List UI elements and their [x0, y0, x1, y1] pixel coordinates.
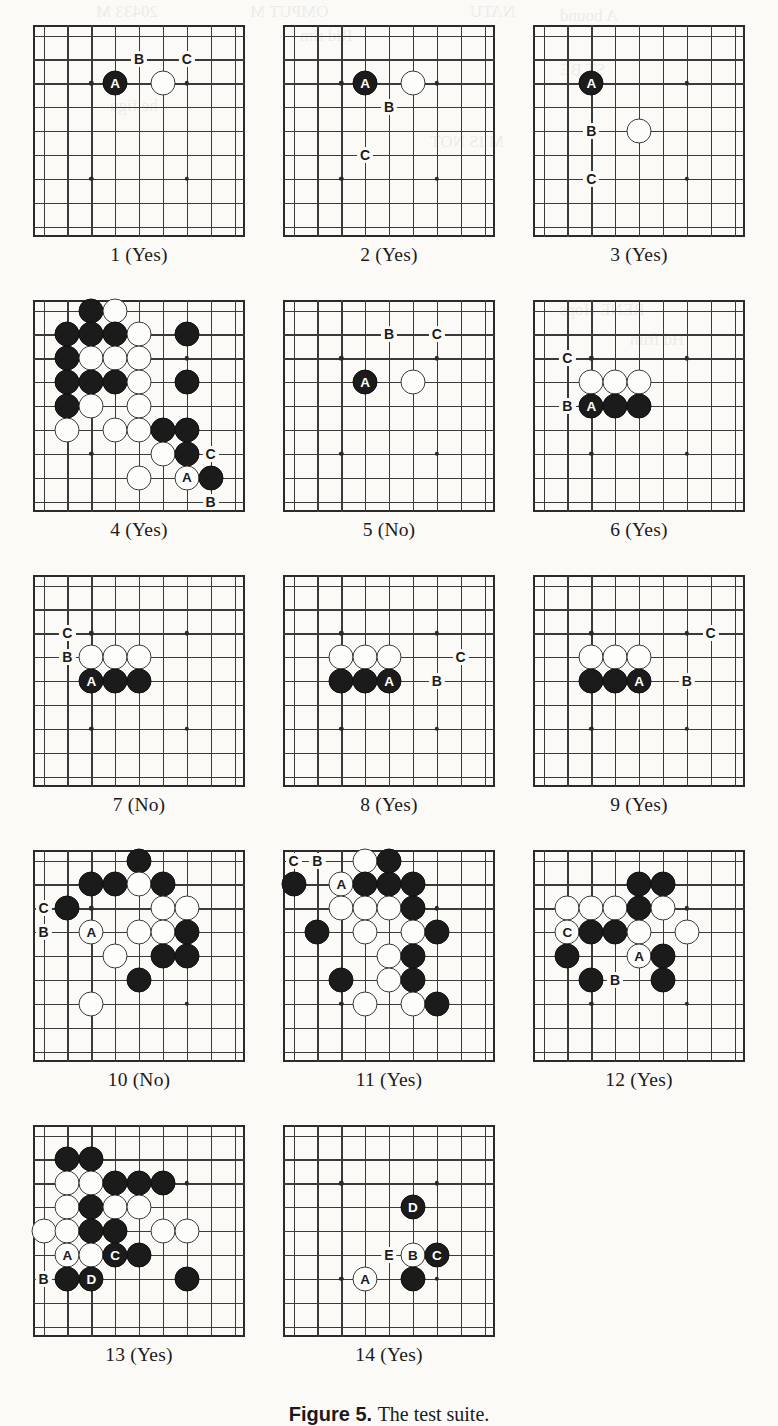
point-label-b[interactable]: B: [131, 51, 147, 67]
go-board-2[interactable]: BCA: [283, 25, 495, 237]
white-stone[interactable]: [127, 322, 152, 347]
black-stone[interactable]: [281, 872, 306, 897]
point-label-b[interactable]: B: [203, 494, 219, 510]
black-stone[interactable]: [103, 669, 128, 694]
white-stone[interactable]: [353, 991, 378, 1016]
point-label-c[interactable]: C: [35, 900, 51, 916]
point-label-b[interactable]: B: [35, 1271, 51, 1287]
white-stone[interactable]: [400, 71, 425, 96]
black-stone[interactable]: [400, 896, 425, 921]
white-stone-a[interactable]: A: [79, 920, 104, 945]
point-label-b[interactable]: B: [381, 99, 397, 115]
black-stone[interactable]: [174, 920, 199, 945]
black-stone[interactable]: [627, 896, 652, 921]
white-stone[interactable]: [55, 1195, 80, 1220]
white-stone[interactable]: [79, 991, 104, 1016]
white-stone[interactable]: [579, 370, 604, 395]
black-stone[interactable]: [305, 920, 330, 945]
white-stone[interactable]: [79, 1171, 104, 1196]
point-label-c[interactable]: C: [703, 625, 719, 641]
white-stone[interactable]: [150, 71, 175, 96]
point-label-b[interactable]: B: [309, 853, 325, 869]
white-stone[interactable]: [55, 1171, 80, 1196]
black-stone-c[interactable]: C: [103, 1242, 128, 1267]
white-stone[interactable]: [127, 872, 152, 897]
go-board-10[interactable]: CBA: [33, 850, 245, 1062]
point-label-c[interactable]: C: [203, 446, 219, 462]
black-stone[interactable]: [127, 848, 152, 873]
black-stone[interactable]: [377, 848, 402, 873]
black-stone[interactable]: [603, 394, 628, 419]
white-stone[interactable]: [377, 944, 402, 969]
white-stone[interactable]: [627, 920, 652, 945]
black-stone[interactable]: [55, 1147, 80, 1172]
black-stone[interactable]: [174, 1266, 199, 1291]
white-stone[interactable]: [150, 896, 175, 921]
white-stone[interactable]: [400, 920, 425, 945]
black-stone[interactable]: [79, 1219, 104, 1244]
black-stone-d[interactable]: D: [79, 1266, 104, 1291]
point-label-c[interactable]: C: [453, 649, 469, 665]
black-stone[interactable]: [174, 441, 199, 466]
black-stone[interactable]: [400, 944, 425, 969]
white-stone[interactable]: [79, 1242, 104, 1267]
black-stone-a[interactable]: A: [79, 669, 104, 694]
black-stone[interactable]: [424, 991, 449, 1016]
white-stone[interactable]: [150, 920, 175, 945]
go-board-11[interactable]: CBA: [283, 850, 495, 1062]
white-stone-a[interactable]: A: [353, 1266, 378, 1291]
black-stone[interactable]: [127, 1171, 152, 1196]
black-stone[interactable]: [579, 669, 604, 694]
white-stone[interactable]: [150, 441, 175, 466]
black-stone[interactable]: [174, 417, 199, 442]
black-stone[interactable]: [127, 1242, 152, 1267]
go-board-13[interactable]: BACD: [33, 1125, 245, 1337]
black-stone[interactable]: [377, 872, 402, 897]
black-stone[interactable]: [174, 944, 199, 969]
point-label-c[interactable]: C: [59, 625, 75, 641]
point-label-b[interactable]: B: [559, 398, 575, 414]
go-board-4[interactable]: CBA: [33, 300, 245, 512]
white-stone[interactable]: [150, 1219, 175, 1244]
go-board-12[interactable]: BCA: [533, 850, 745, 1062]
black-stone[interactable]: [79, 1147, 104, 1172]
white-stone[interactable]: [400, 991, 425, 1016]
white-stone[interactable]: [377, 645, 402, 670]
black-stone[interactable]: [400, 872, 425, 897]
black-stone[interactable]: [55, 322, 80, 347]
white-stone[interactable]: [377, 896, 402, 921]
point-label-b[interactable]: B: [583, 123, 599, 139]
black-stone[interactable]: [650, 872, 675, 897]
point-label-c[interactable]: C: [559, 350, 575, 366]
white-stone[interactable]: [579, 896, 604, 921]
point-label-b[interactable]: B: [607, 972, 623, 988]
white-stone-b[interactable]: B: [400, 1242, 425, 1267]
point-label-c[interactable]: C: [583, 171, 599, 187]
black-stone[interactable]: [150, 944, 175, 969]
white-stone[interactable]: [650, 896, 675, 921]
black-stone[interactable]: [79, 298, 104, 323]
go-board-8[interactable]: CBA: [283, 575, 495, 787]
go-board-9[interactable]: CBA: [533, 575, 745, 787]
black-stone[interactable]: [150, 1171, 175, 1196]
black-stone[interactable]: [55, 346, 80, 371]
black-stone-a[interactable]: A: [627, 669, 652, 694]
white-stone[interactable]: [127, 370, 152, 395]
white-stone[interactable]: [127, 645, 152, 670]
white-stone-a[interactable]: A: [329, 872, 354, 897]
white-stone[interactable]: [674, 920, 699, 945]
white-stone[interactable]: [400, 370, 425, 395]
white-stone[interactable]: [555, 896, 580, 921]
go-board-5[interactable]: BCA: [283, 300, 495, 512]
black-stone-a[interactable]: A: [579, 71, 604, 96]
black-stone[interactable]: [150, 417, 175, 442]
white-stone[interactable]: [603, 896, 628, 921]
white-stone[interactable]: [603, 370, 628, 395]
black-stone[interactable]: [150, 872, 175, 897]
white-stone[interactable]: [127, 1195, 152, 1220]
black-stone[interactable]: [55, 394, 80, 419]
black-stone[interactable]: [103, 872, 128, 897]
white-stone[interactable]: [627, 645, 652, 670]
point-label-b[interactable]: B: [35, 924, 51, 940]
white-stone[interactable]: [79, 645, 104, 670]
